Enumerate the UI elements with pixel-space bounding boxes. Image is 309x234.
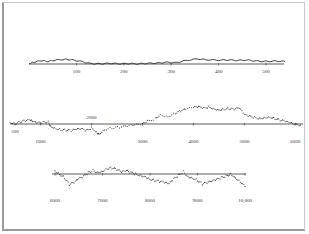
- data-point: [173, 178, 174, 179]
- data-point: [67, 130, 68, 131]
- data-point: [76, 129, 77, 130]
- tick-label: 300: [167, 69, 175, 74]
- data-point: [286, 121, 287, 122]
- data-point: [82, 177, 83, 178]
- tick-label: 5000: [239, 139, 250, 144]
- data-point: [176, 113, 177, 114]
- data-point: [180, 111, 181, 112]
- data-point: [244, 186, 245, 187]
- data-point: [161, 181, 162, 182]
- data-point: [229, 175, 230, 176]
- data-point: [36, 123, 37, 124]
- data-point: [244, 114, 245, 115]
- data-point: [300, 125, 301, 126]
- data-point: [54, 127, 55, 128]
- data-point: [127, 126, 128, 127]
- data-point: [197, 181, 198, 182]
- data-point: [151, 120, 152, 121]
- data-point: [115, 126, 116, 127]
- data-point: [230, 173, 231, 174]
- data-point: [81, 128, 82, 129]
- data-point: [41, 123, 42, 124]
- data-point: [240, 182, 241, 183]
- data-point: [215, 180, 216, 181]
- data-point: [149, 120, 150, 121]
- data-point: [44, 121, 45, 122]
- row-3-panel: 600070008000900010,000: [50, 166, 252, 204]
- data-point: [132, 125, 133, 126]
- data-point: [115, 168, 116, 169]
- data-point: [106, 129, 107, 130]
- data-point: [95, 131, 96, 132]
- data-point: [57, 173, 58, 174]
- data-point: [82, 128, 83, 129]
- data-point: [165, 182, 166, 183]
- data-point: [236, 179, 237, 180]
- row-3-series: [54, 166, 245, 187]
- data-point: [182, 173, 183, 174]
- data-point: [269, 117, 270, 118]
- data-point: [216, 109, 217, 110]
- data-point: [158, 180, 159, 181]
- row-1-series: [29, 59, 285, 65]
- data-point: [211, 108, 212, 109]
- data-point: [62, 130, 63, 131]
- data-point: [128, 171, 129, 172]
- data-point: [104, 130, 105, 131]
- data-point: [146, 122, 147, 123]
- data-point: [197, 107, 198, 108]
- data-point: [169, 116, 170, 117]
- data-point: [191, 107, 192, 108]
- data-point: [147, 178, 148, 179]
- data-point: [171, 114, 172, 115]
- data-point: [221, 176, 222, 177]
- data-point: [130, 124, 131, 125]
- data-point: [121, 126, 122, 127]
- data-point: [132, 172, 133, 173]
- data-point: [111, 168, 112, 169]
- data-point: [148, 177, 149, 178]
- series-line: [29, 59, 285, 65]
- data-point: [68, 181, 69, 182]
- data-point: [151, 180, 152, 181]
- data-point: [79, 177, 80, 178]
- data-point: [103, 171, 104, 172]
- data-point: [183, 170, 184, 171]
- data-point: [50, 125, 51, 126]
- data-point: [262, 118, 263, 119]
- data-point: [195, 179, 196, 180]
- data-point: [34, 121, 35, 122]
- data-point: [240, 108, 241, 109]
- data-point: [217, 178, 218, 179]
- data-point: [60, 175, 61, 176]
- data-point: [104, 169, 105, 170]
- data-point: [199, 181, 200, 182]
- data-point: [143, 122, 144, 123]
- data-point: [87, 174, 88, 175]
- data-point: [91, 171, 92, 172]
- data-point: [157, 117, 158, 118]
- data-point: [66, 180, 67, 181]
- data-point: [299, 125, 300, 126]
- data-point: [158, 115, 159, 116]
- data-point: [133, 173, 134, 174]
- data-point: [190, 177, 191, 178]
- data-point: [281, 120, 282, 121]
- data-point: [189, 107, 190, 108]
- data-point: [263, 117, 264, 118]
- data-point: [218, 109, 219, 110]
- data-point: [119, 128, 120, 129]
- data-point: [162, 115, 163, 116]
- data-point: [207, 108, 208, 109]
- data-point: [106, 168, 107, 169]
- data-point: [90, 129, 91, 130]
- data-point: [85, 130, 86, 131]
- data-point: [18, 121, 19, 122]
- data-point: [259, 117, 260, 118]
- data-point: [245, 114, 246, 115]
- data-point: [209, 107, 210, 108]
- data-point: [224, 177, 225, 178]
- data-point: [107, 169, 108, 170]
- data-point: [83, 175, 84, 176]
- data-point: [77, 128, 78, 129]
